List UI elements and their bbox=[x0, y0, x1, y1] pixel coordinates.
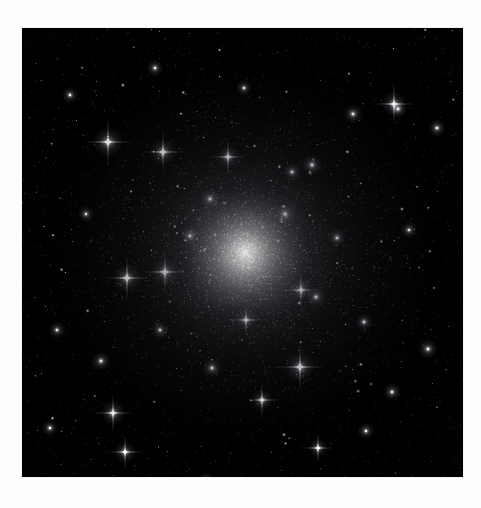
star-field-canvas bbox=[22, 28, 463, 477]
page-root bbox=[0, 0, 481, 508]
astronomy-image-plate bbox=[22, 28, 463, 477]
